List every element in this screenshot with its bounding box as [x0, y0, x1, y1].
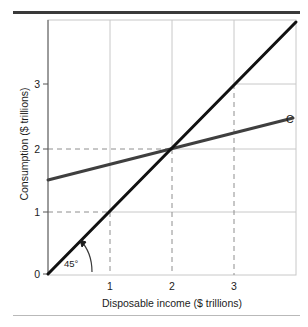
y-tick-label-3: 3: [22, 78, 40, 90]
angle-annotation-label: 45°: [64, 258, 78, 269]
figure-canvas: Consumption ($ trillions) Disposable inc…: [0, 0, 308, 327]
x-tick-label-1: 1: [100, 280, 120, 292]
x-axis-title: Disposable income ($ trillions): [48, 297, 296, 309]
y-tick-label-0: 0: [22, 268, 40, 280]
series-label-c: C: [286, 113, 294, 125]
y-tick-label-1: 1: [22, 206, 40, 218]
chart-svg: [0, 0, 308, 327]
x-tick-label-2: 2: [162, 280, 182, 292]
chart-plot: Consumption ($ trillions) Disposable inc…: [0, 0, 308, 327]
y-tick-label-2: 2: [22, 143, 40, 155]
x-tick-label-3: 3: [224, 280, 244, 292]
